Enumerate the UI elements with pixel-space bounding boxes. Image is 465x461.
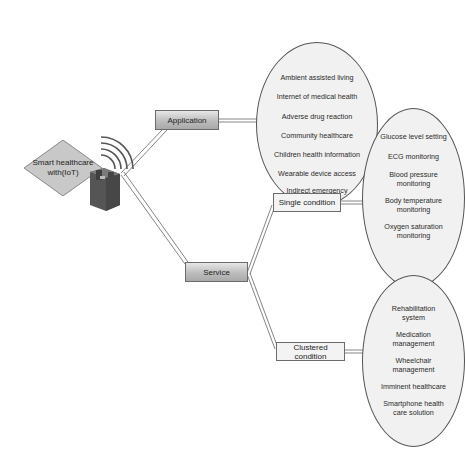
single-condition-item: Glucose level setting [363,132,464,141]
clustered-condition-item: management [363,339,464,348]
single-condition-label: Single condition [279,198,335,207]
service-node: Service [185,262,248,282]
application-node: Application [155,110,219,130]
root-label-line2: with(IoT) [31,168,95,178]
clustered-condition-label: Clustered condition [277,343,344,361]
single-condition-item: ECG monitoring [363,152,464,161]
clustered-condition-item: Wheelchair [363,356,464,365]
clustered-condition-item: management [363,365,464,374]
application-item: Ambient assisted living [257,73,377,82]
wifi-signal-icon [101,137,133,169]
clustered-condition-item: Imminent healthcare [363,382,464,391]
application-item: Adverse drug reaction [257,112,377,121]
single-condition-item: Blood pressure [363,170,464,179]
clustered-condition-item: care solution [363,408,464,417]
root-label-line1: Smart healthcare [31,158,95,168]
single-condition-item: monitoring [363,231,464,240]
clustered-condition-item: system [363,313,464,322]
single-condition-item: monitoring [363,179,464,188]
application-label: Application [167,116,206,125]
single-condition-item: Body temperature [363,196,464,205]
application-item: Children health information [257,150,377,159]
root-label: Smart healthcare with(IoT) [31,158,95,178]
single-condition-item: Oxygen saturation [363,222,464,231]
application-item: Internet of medical health [257,92,377,101]
single-condition-item: monitoring [363,205,464,214]
clustered-condition-node: Clustered condition [276,342,345,361]
clustered-condition-items-ellipse: Rehabilitation system Medication managem… [362,275,465,447]
service-label: Service [203,268,230,277]
clustered-condition-item: Smartphone health [363,399,464,408]
application-items-ellipse: Ambient assisted living Internet of medi… [256,42,378,207]
iot-healthcare-diagram: Smart healthcare with(IoT) Application A… [0,0,465,461]
single-condition-items-ellipse: Glucose level setting ECG monitoring Blo… [362,108,465,288]
single-condition-node: Single condition [273,193,341,212]
application-item: Community healthcare [257,131,377,140]
clustered-condition-item: Rehabilitation [363,304,464,313]
clustered-condition-item: Medication [363,330,464,339]
application-item: Wearable device access [257,169,377,178]
